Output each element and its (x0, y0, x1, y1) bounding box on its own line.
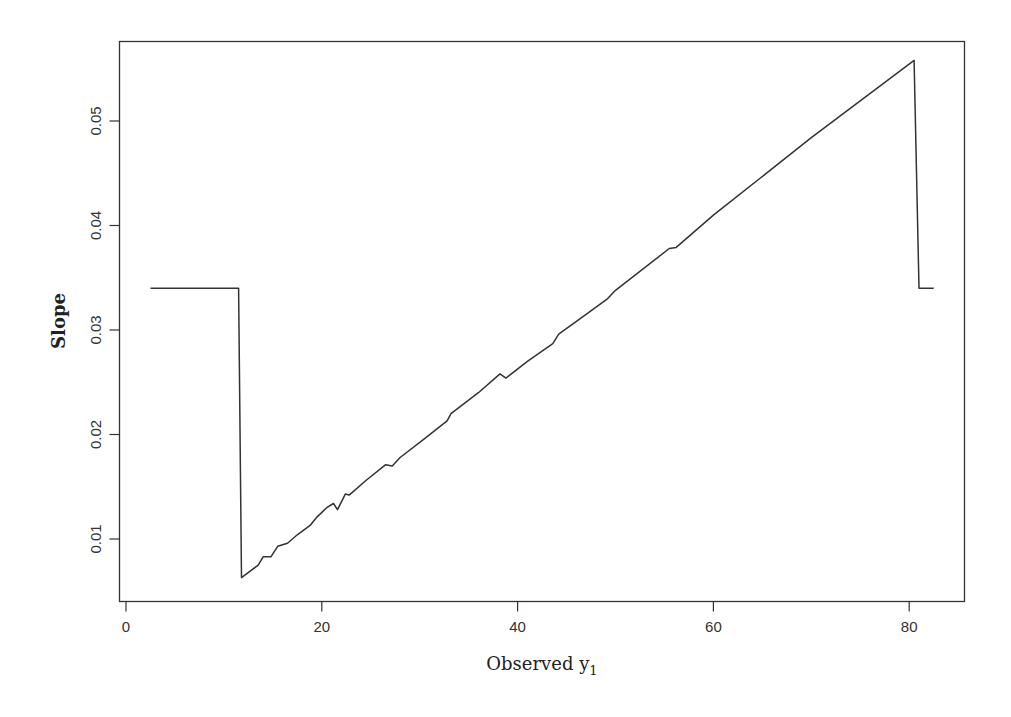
y-axis: 0.010.020.030.040.05 (87, 106, 120, 553)
x-tick-label: 0 (122, 618, 130, 635)
y-tick-label: 0.05 (87, 106, 104, 135)
y-tick-label: 0.04 (87, 211, 104, 240)
x-axis: 020406080 (122, 602, 918, 635)
y-tick-label: 0.01 (87, 524, 104, 553)
x-tick-label: 40 (509, 618, 526, 635)
slope-line (151, 60, 934, 577)
x-tick-label: 20 (313, 618, 330, 635)
x-axis-title: Observed y1 (486, 653, 597, 678)
x-tick-label: 80 (901, 618, 918, 635)
y-tick-label: 0.03 (87, 315, 104, 344)
y-axis-title: Slope (48, 293, 69, 349)
plot-frame (120, 42, 965, 602)
x-tick-label: 60 (705, 618, 722, 635)
slope-chart: 020406080 0.010.020.030.040.05 Observed … (0, 0, 1011, 717)
y-tick-label: 0.02 (87, 420, 104, 449)
